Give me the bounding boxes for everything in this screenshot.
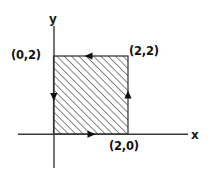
y-axis-label: y [49,13,57,25]
hatched-square-region [54,56,129,134]
x-axis-label: x [191,129,199,141]
vertex-label-0-2: (0,2) [11,50,41,62]
vertex-label-2-2: (2,2) [129,46,159,58]
figure-canvas: y x (0,2) (2,2) (2,0) [0,0,211,175]
vertex-label-2-0: (2,0) [109,141,139,153]
coordinate-diagram [0,0,211,175]
